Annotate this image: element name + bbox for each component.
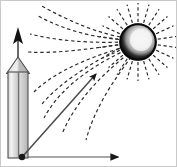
vertical-block-arrow [7,27,30,158]
sphere-ray [149,9,159,25]
sphere-ray [117,59,127,75]
sphere-ray [156,26,173,34]
sphere-ray [158,45,177,48]
sphere-ray [149,59,159,75]
sphere-ray [117,9,127,25]
sphere-ray [127,61,132,79]
field-lines-group [28,5,131,140]
sphere-ray [109,16,123,28]
sphere-ray [144,5,149,23]
sphere-ray [158,36,177,39]
field-line [86,57,131,140]
sphere-ray [156,50,173,58]
charged-sphere [120,24,157,61]
sphere-ray [153,55,167,67]
figure-canvas [0,0,177,167]
sphere-ray [103,26,120,34]
sphere-ray [144,61,149,79]
block-arrow-tip [7,57,30,74]
sphere-ray [127,5,132,23]
origin-point [19,154,25,160]
sphere-ray [153,16,167,28]
field-line [28,44,124,52]
sphere-ray [99,36,118,39]
sphere-ray [109,55,123,67]
field-line [40,5,126,38]
field-line [44,50,126,118]
physics-diagram [0,0,177,167]
field-line [34,47,125,92]
